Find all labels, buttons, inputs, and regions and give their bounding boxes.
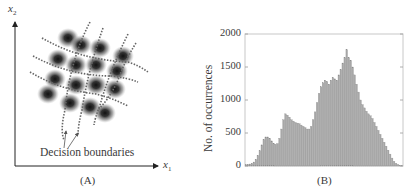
histogram-bar [332,78,334,166]
histogram-bar [261,145,263,166]
histogram-bar [310,126,312,166]
histogram-bar [287,115,289,166]
panel-a-diagram: x2 x1 Decision boundaries (A) [0,0,200,192]
histogram-bar [273,144,275,166]
histogram-bar [314,112,316,166]
y-tick-1000: 1000 [201,93,241,104]
histogram-bar [265,137,267,166]
histogram-bar [318,93,320,166]
histogram-bar [277,144,279,166]
histogram-bar [301,125,303,166]
histogram-bar [393,161,395,166]
histogram-bar [302,126,304,166]
x1-axis-label: x1 [163,158,171,173]
histogram-bar [346,50,348,166]
histogram-bar [269,138,271,166]
panel-b-histogram: No. of occurrences 0 500 1000 1500 2000 … [200,0,412,192]
histogram-bar [385,146,387,166]
decision-boundaries-label: Decision boundaries [40,146,134,158]
histogram-bar [328,84,330,166]
x2-axis-label: x2 [8,2,16,17]
y-axis-label: No. of occurrences [202,65,214,152]
histogram-bar [285,114,287,166]
histogram-bar [368,114,370,166]
histogram-bar [358,92,360,166]
histogram-bar [374,122,376,166]
histogram-bar [338,75,340,166]
histogram-bar [383,142,385,166]
histogram-bar [295,122,297,166]
y-tick-2000: 2000 [201,27,241,38]
y-tick-500: 500 [201,126,241,137]
histogram-bar [326,82,328,166]
histogram-bar [324,80,326,166]
histogram-bar [304,128,306,166]
histogram-bar [330,80,332,166]
x1-axis-sub: 1 [168,165,172,173]
histogram-bar [289,117,291,166]
histogram-bar [283,120,285,166]
histogram-bar [334,79,336,166]
histogram-bar [397,165,399,166]
histogram-bar [259,151,261,166]
histogram-bar [389,154,391,166]
y-tick-0: 0 [201,159,241,170]
histogram-bar [372,118,374,166]
histogram-bar [364,108,366,166]
histogram-bar [380,134,382,166]
cluster-blob [89,38,111,58]
histogram-bar [299,124,301,166]
y-ticks [245,34,403,166]
histogram-bar [267,137,269,166]
histogram-bar [362,105,364,166]
histogram-bar [360,100,362,166]
histogram-bar [279,138,281,166]
histogram-bar [350,60,352,166]
histogram-bar [395,163,397,166]
histogram-bar [344,58,346,166]
histogram-bar [271,141,273,166]
histogram-bar [354,75,356,166]
histogram-bar [257,155,259,166]
histogram-bar [381,138,383,166]
histogram-bar [320,87,322,166]
histogram-bar [281,129,283,166]
histogram-bar [251,163,253,166]
histogram-bar [370,116,372,166]
histogram-bar [342,63,344,166]
histogram-bar [366,111,368,166]
panel-a-caption: (A) [80,174,95,186]
histogram-bar [308,129,310,166]
histogram-bar [340,70,342,166]
plot-frame [245,34,403,166]
histogram-bar [249,164,251,166]
panel-b-caption: (B) [317,174,332,186]
histogram-bar [348,58,350,166]
histogram-bar [336,80,338,166]
histogram-bar [255,159,257,166]
histogram-bar [291,120,293,166]
histogram-bar [297,123,299,166]
histogram-bars [245,50,403,166]
histogram-bar [253,162,255,166]
cluster-blob [59,93,81,113]
histogram-bar [376,126,378,166]
histogram-bar [387,150,389,166]
histogram-bar [263,140,265,166]
histogram-bar [316,103,318,166]
histogram-bar [312,120,314,166]
histogram-bar [391,158,393,166]
histogram-bar [275,144,277,166]
y-tick-1500: 1500 [201,60,241,71]
histogram-bar [293,121,295,166]
histogram-bar [352,67,354,166]
histogram-bar [306,129,308,166]
histogram-bar [378,130,380,166]
cluster-blob [106,61,128,81]
cluster-blob [37,84,59,104]
histogram-bar [322,83,324,166]
x2-axis-sub: 2 [13,9,17,17]
histogram-bar [356,84,358,166]
